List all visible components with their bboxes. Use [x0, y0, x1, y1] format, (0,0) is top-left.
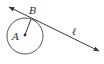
label-b: B	[28, 5, 36, 16]
label-a: A	[11, 31, 19, 42]
circle-tangent-diagram: A B ℓ	[0, 0, 104, 64]
label-line-l: ℓ	[72, 26, 76, 37]
center-point-a	[24, 34, 27, 37]
radius-ab	[25, 19, 31, 35]
tangent-line-l	[9, 7, 99, 51]
